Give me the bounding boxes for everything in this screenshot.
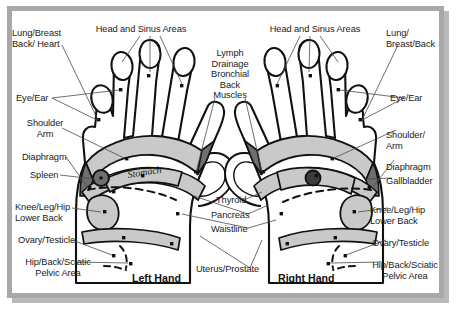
caption-right-hand: Right Hand — [278, 272, 335, 284]
label-gallbladder: Gallbladder — [386, 176, 432, 187]
label-shoulder-arm-right: Shoulder/ Arm — [386, 130, 425, 151]
label-knee-leg-hip-lower-back-right: Knee/Leg/Hip Lower Back — [370, 205, 425, 226]
label-spleen: Spleen — [30, 170, 58, 181]
label-ovary-testicle-left: Ovary/Testicle — [18, 235, 75, 246]
gallbladder-marker — [306, 171, 321, 186]
label-lymph-drainage-bronchial-back-muscles: Lymph Drainage Bronchial Back Muscles — [196, 48, 264, 101]
label-thyroid: Thyroid — [216, 195, 246, 206]
label-hip-back-sciatic-pelvic-area-left: Hip/Back/Sciatic Pelvic Area — [12, 257, 104, 278]
label-pancreas: Pancreas — [211, 210, 249, 221]
label-lung-breast-back-right: Lung/ Breast/Back — [386, 28, 435, 49]
label-uterus-prostate: Uterus/Prostate — [196, 264, 259, 275]
caption-left-hand: Left Hand — [132, 272, 181, 284]
label-head-and-sinus-areas-left: Head and Sinus Areas — [88, 24, 194, 35]
label-shoulder-arm-left: Shoulder Arm — [18, 118, 72, 139]
label-lung-breast-back-heart: Lung/Breast Back/ Heart — [12, 28, 61, 49]
label-waistline: Waistline — [211, 224, 247, 235]
label-eye-ear-right: Eye/Ear — [390, 93, 422, 104]
label-hip-back-sciatic-pelvic-area-right: Hip/Back/Sciatic Pelvic Area — [358, 260, 452, 281]
label-eye-ear-left: Eye/Ear — [16, 93, 48, 104]
label-head-and-sinus-areas-right: Head and Sinus Areas — [262, 24, 368, 35]
label-knee-leg-hip-lower-back-left: Knee/Leg/Hip Lower Back — [15, 202, 70, 223]
label-diaphragm-left: Diaphragm — [22, 152, 67, 163]
reflexology-hand-chart: Stomach — [0, 0, 459, 312]
label-diaphragm-right: Diaphragm — [386, 162, 431, 173]
label-ovary-testicle-right: Ovary/Testicle — [372, 238, 429, 249]
